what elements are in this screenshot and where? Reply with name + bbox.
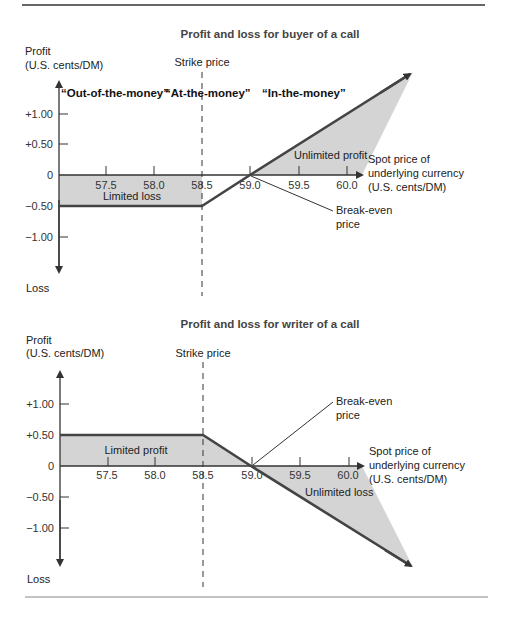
loss-label: Loss [27,573,51,585]
x-tick: 57.5 [96,469,117,481]
y-tick: +0.50 [26,429,54,441]
y-tick: −1.00 [26,522,54,534]
y-tick: +1.00 [25,108,53,120]
x-tick: 58.5 [191,179,212,191]
strike-price-label: Strike price [175,347,230,359]
strike-price-label: Strike price [174,56,229,68]
x-axis-label: underlying currency [368,167,464,179]
break-even-pointer [253,402,333,465]
y-axis-label-units: (U.S. cents/DM) [26,347,104,359]
limited-profit-label: Limited profit [105,444,168,456]
break-even-label: price [336,409,360,421]
y-tick: −0.50 [25,200,53,212]
y-axis-label-profit: Profit [25,45,51,57]
x-tick: 58.0 [144,469,165,481]
writer-chart: Profit and loss for writer of a call Pro… [26,318,465,587]
x-tick: 59.5 [289,469,310,481]
y-tick: 0 [48,460,54,472]
buyer-chart-title: Profit and loss for buyer of a call [181,28,360,40]
x-tick: 58.5 [192,469,213,481]
otm-label: “Out-of-the-money” [61,87,169,99]
x-axis-label: (U.S. cents/DM) [368,181,446,193]
x-tick: 60.0 [336,179,357,191]
limited-loss-label: Limited loss [103,190,162,202]
atm-label: “At-the-money” [165,87,251,99]
unlimited-profit-label: Unlimited profit [294,149,367,161]
break-even-label: price [336,218,360,230]
x-tick: 59.5 [288,179,309,191]
itm-label: “In-the-money” [262,87,346,99]
loss-label: Loss [26,282,50,294]
y-tick: +1.00 [26,398,54,410]
y-tick: +0.50 [25,138,53,150]
y-tick: −0.50 [26,491,54,503]
break-even-label: Break-even [336,204,392,216]
y-axis-label-profit: Profit [26,334,52,346]
x-axis-label: Spot price of [368,153,431,165]
buyer-chart: Profit and loss for buyer of a call Prof… [25,28,464,296]
x-axis-label: underlying currency [369,459,465,471]
y-tick: −1.00 [25,231,53,243]
break-even-label: Break-even [336,395,392,407]
y-tick: 0 [47,169,53,181]
unlimited-loss-label: Unlimited loss [305,486,374,498]
x-tick: 60.0 [337,469,358,481]
writer-chart-title: Profit and loss for writer of a call [181,318,360,330]
x-axis-label: (U.S. cents/DM) [369,473,447,485]
x-axis-label: Spot price of [369,445,432,457]
y-axis-label-units: (U.S. cents/DM) [25,59,103,71]
call-option-pl-figure: Profit and loss for buyer of a call Prof… [0,0,517,617]
